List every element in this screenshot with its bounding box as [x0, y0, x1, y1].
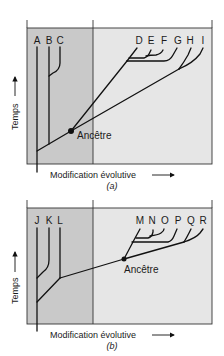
taxon-label-n: N [148, 215, 155, 226]
taxon-label-m: M [136, 215, 144, 226]
panel-a: Ancêtre A B C D E F G H I Temps Modifica… [10, 20, 212, 191]
panel-b-x-axis-label: Modification évolutive [50, 330, 136, 340]
panel-a-ancestor-dot [68, 128, 74, 134]
taxon-label-h: H [186, 35, 193, 46]
taxon-label-o: O [161, 215, 169, 226]
taxon-label-r: R [199, 215, 206, 226]
panel-a-light-region [93, 28, 212, 164]
taxon-label-p: P [175, 215, 182, 226]
panel-a-y-axis-label: Temps [10, 103, 20, 130]
taxon-label-e: E [148, 35, 155, 46]
evolution-diagram: Ancêtre A B C D E F G H I Temps Modifica… [0, 0, 224, 356]
panel-a-caption: (a) [107, 181, 118, 191]
taxon-label-f: F [161, 35, 167, 46]
taxon-label-g: G [174, 35, 182, 46]
panel-b-caption: (b) [107, 341, 118, 351]
panel-b-y-axis-label: Temps [10, 277, 20, 304]
taxon-label-a: A [34, 35, 41, 46]
taxon-label-l: L [57, 215, 63, 226]
panel-a-x-axis-label: Modification évolutive [50, 170, 136, 180]
taxon-label-q: Q [187, 215, 195, 226]
taxon-label-i: I [202, 35, 205, 46]
taxon-label-b: B [46, 35, 53, 46]
panel-b-ancestor-label: Ancêtre [124, 264, 159, 275]
taxon-label-j: J [35, 215, 40, 226]
taxon-label-d: D [135, 35, 142, 46]
panel-a-ancestor-label: Ancêtre [77, 130, 112, 141]
panel-b-ancestor-dot [122, 257, 127, 262]
taxon-label-c: C [56, 35, 63, 46]
taxon-label-k: K [46, 215, 53, 226]
panel-b: Ancêtre J K L M N O P Q R Temps Modifica… [10, 200, 212, 351]
